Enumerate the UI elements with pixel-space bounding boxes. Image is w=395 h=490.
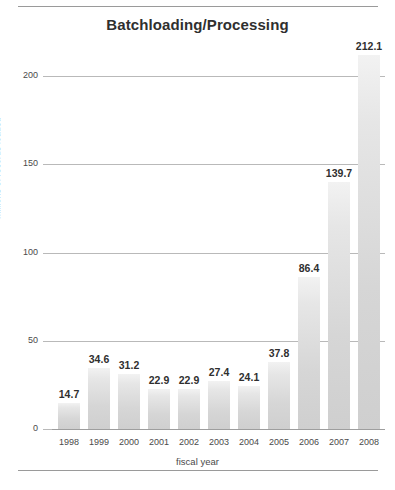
- bar[interactable]: [88, 368, 110, 429]
- y-tick-mark: [43, 253, 52, 254]
- bar[interactable]: [268, 362, 290, 429]
- x-axis-label: fiscal year: [0, 456, 395, 467]
- top-divider-rule: [18, 6, 378, 7]
- y-tick-label: 50: [0, 336, 38, 345]
- bar[interactable]: [208, 381, 230, 429]
- bar[interactable]: [358, 55, 380, 429]
- y-tick-mark: [43, 429, 52, 430]
- bottom-divider-rule: [18, 470, 378, 471]
- bar-slot: 14.71998: [54, 60, 84, 429]
- bar[interactable]: [178, 389, 200, 429]
- y-tick-mark: [43, 341, 52, 342]
- y-tick-label: 200: [0, 71, 38, 80]
- bar[interactable]: [58, 403, 80, 429]
- x-tick-label: 2008: [348, 437, 390, 447]
- bar-slot: 34.61999: [84, 60, 114, 429]
- page-header-remnant: [0, 0, 395, 5]
- bar-slot: 139.72007: [324, 60, 354, 429]
- bar[interactable]: [328, 182, 350, 429]
- bar-slot: 24.12004: [234, 60, 264, 429]
- bar[interactable]: [148, 389, 170, 429]
- y-tick-mark: [43, 164, 52, 165]
- plot-area: 050100150200 14.7199834.6199931.2200022.…: [52, 60, 385, 429]
- bar[interactable]: [118, 374, 140, 429]
- y-tick-label: 100: [0, 248, 38, 257]
- y-tick-mark: [43, 76, 52, 77]
- chart-title: Batchloading/Processing: [0, 16, 395, 33]
- bar-slot: 37.82005: [264, 60, 294, 429]
- x-axis-baseline: [52, 429, 385, 430]
- y-tick-label: 0: [0, 424, 38, 433]
- bar-slot: 86.42006: [294, 60, 324, 429]
- bar-slot: 212.12008: [354, 60, 384, 429]
- y-tick-label: 150: [0, 159, 38, 168]
- bar[interactable]: [238, 386, 260, 429]
- bar-value-label: 212.1: [348, 40, 390, 52]
- chart-figure: Batchloading/Processing millions of reco…: [0, 0, 395, 490]
- bar[interactable]: [298, 277, 320, 429]
